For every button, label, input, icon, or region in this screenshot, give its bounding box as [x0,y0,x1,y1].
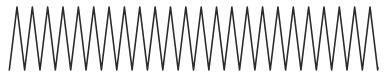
waveform-figure [0,0,386,76]
waveform-svg [0,0,386,76]
waveform-line [9,7,378,70]
